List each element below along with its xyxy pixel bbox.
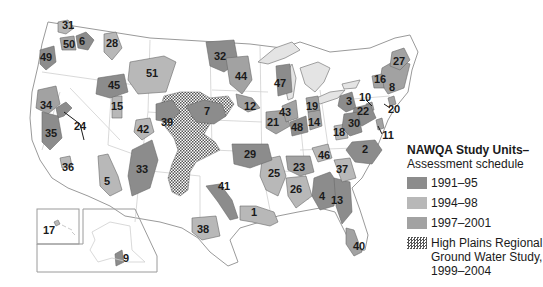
insets bbox=[37, 209, 157, 272]
unit-label-23: 23 bbox=[293, 161, 305, 173]
unit-label-10: 10 bbox=[359, 91, 371, 103]
legend-item-1997-2001: 1997–2001 bbox=[407, 216, 543, 230]
unit-label-2: 2 bbox=[362, 143, 368, 155]
unit-label-1: 1 bbox=[251, 206, 257, 218]
unit-label-31: 31 bbox=[62, 19, 74, 31]
unit-label-42: 42 bbox=[137, 123, 149, 135]
legend-label-1991-95: 1991–95 bbox=[431, 176, 478, 190]
unit-label-5: 5 bbox=[104, 175, 110, 187]
unit-label-17: 17 bbox=[43, 224, 55, 236]
legend-swatch-1994-98 bbox=[407, 197, 427, 209]
legend-swatch-1997-2001 bbox=[407, 217, 427, 229]
unit-label-47: 47 bbox=[274, 77, 286, 89]
unit-label-6: 6 bbox=[79, 35, 85, 47]
unit-label-33: 33 bbox=[136, 163, 148, 175]
unit-label-8: 8 bbox=[389, 81, 395, 93]
legend-label-high-plains: High Plains Regional Ground Water Study,… bbox=[431, 236, 543, 278]
legend-swatch-high-plains bbox=[407, 237, 427, 249]
unit-label-48: 48 bbox=[291, 121, 303, 133]
unit-label-13: 13 bbox=[331, 194, 343, 206]
unit-label-18: 18 bbox=[333, 126, 345, 138]
unit-label-49: 49 bbox=[40, 51, 52, 63]
unit-label-40: 40 bbox=[353, 240, 365, 252]
legend-item-1991-95: 1991–95 bbox=[407, 176, 543, 190]
legend-item-1994-98: 1994–98 bbox=[407, 196, 543, 210]
unit-label-28: 28 bbox=[106, 37, 118, 49]
legend-label-1997-2001: 1997–2001 bbox=[431, 216, 491, 230]
unit-label-45: 45 bbox=[108, 79, 120, 91]
unit-label-46: 46 bbox=[318, 149, 330, 161]
unit-label-24: 24 bbox=[74, 120, 87, 132]
unit-label-7: 7 bbox=[204, 105, 210, 117]
unit-label-32: 32 bbox=[214, 50, 226, 62]
unit-label-27: 27 bbox=[393, 55, 405, 67]
unit-label-38: 38 bbox=[197, 223, 209, 235]
unit-label-11: 11 bbox=[382, 129, 394, 141]
unit-label-19: 19 bbox=[306, 100, 318, 112]
unit-label-14: 14 bbox=[308, 116, 321, 128]
unit-label-3: 3 bbox=[346, 95, 352, 107]
unit-label-39: 39 bbox=[161, 116, 173, 128]
unit-label-26: 26 bbox=[290, 183, 302, 195]
unit-label-30: 30 bbox=[348, 117, 360, 129]
unit-label-34: 34 bbox=[40, 99, 53, 111]
unit-label-50: 50 bbox=[63, 38, 75, 50]
unit-label-22: 22 bbox=[357, 105, 369, 117]
unit-label-44: 44 bbox=[235, 70, 248, 82]
unit-label-4: 4 bbox=[319, 190, 326, 202]
unit-label-21: 21 bbox=[267, 116, 279, 128]
legend-label-1994-98: 1994–98 bbox=[431, 196, 478, 210]
unit-label-9: 9 bbox=[123, 252, 129, 264]
unit-label-29: 29 bbox=[244, 148, 256, 160]
unit-label-51: 51 bbox=[146, 67, 158, 79]
legend-item-high-plains: High Plains Regional Ground Water Study,… bbox=[407, 236, 543, 278]
legend-subtitle: Assessment schedule bbox=[407, 157, 543, 171]
unit-label-20: 20 bbox=[388, 103, 400, 115]
unit-label-43: 43 bbox=[279, 106, 291, 118]
unit-label-41: 41 bbox=[218, 180, 230, 192]
alaska-inset bbox=[37, 209, 157, 272]
legend-swatch-1991-95 bbox=[407, 177, 427, 189]
unit-label-37: 37 bbox=[336, 163, 348, 175]
unit-label-15: 15 bbox=[111, 100, 123, 112]
unit-label-35: 35 bbox=[45, 127, 57, 139]
unit-label-36: 36 bbox=[62, 161, 74, 173]
unit-label-25: 25 bbox=[268, 167, 280, 179]
legend-title: NAWQA Study Units– bbox=[407, 143, 543, 157]
legend: NAWQA Study Units– Assessment schedule 1… bbox=[407, 143, 543, 284]
unit-label-12: 12 bbox=[244, 100, 256, 112]
unit-label-16: 16 bbox=[374, 73, 386, 85]
